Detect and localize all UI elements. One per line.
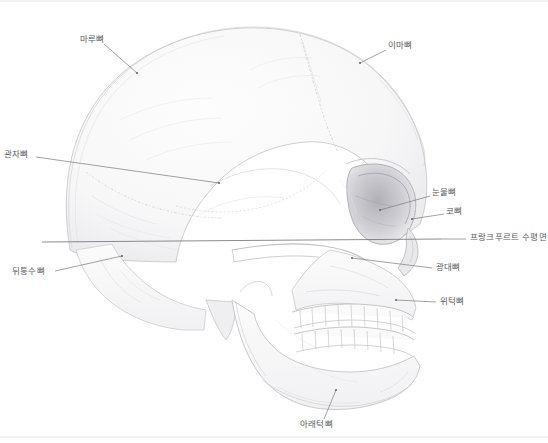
- endpoint-parietal-bone: [136, 72, 138, 74]
- mastoid-process: [206, 300, 236, 340]
- skull-illustration: [0, 0, 548, 443]
- label-maxilla: 위턱뼈: [440, 297, 465, 306]
- label-lacrimal-bone: 눈물뼈: [432, 188, 457, 197]
- skull-anatomy-figure: 마루뼈 이마뼈 관자뼈 눈물뼈 코뼈 프랑크푸르트 수평면 광대뼈 위턱뼈 뒤통…: [0, 0, 548, 443]
- endpoint-mandible: [335, 389, 337, 391]
- lower-teeth: [294, 327, 414, 357]
- label-nasal-bone: 코뼈: [446, 207, 462, 216]
- label-temporal-bone: 관자뼈: [4, 150, 29, 159]
- leader-parietal-bone: [104, 44, 137, 73]
- endpoint-lacrimal-bone: [379, 209, 381, 211]
- label-mandible: 아래턱뼈: [300, 420, 333, 429]
- endpoint-maxilla: [395, 299, 397, 301]
- endpoint-occipital-bone: [121, 255, 123, 257]
- label-parietal-bone: 마루뼈: [80, 35, 105, 44]
- label-zygomatic-bone: 광대뼈: [436, 263, 461, 272]
- endpoint-temporal-bone: [218, 182, 220, 184]
- endpoint-nasal-bone: [411, 218, 413, 220]
- label-occipital-bone: 뒤통수뼈: [12, 267, 45, 276]
- endpoint-frontal-bone: [359, 62, 361, 64]
- endpoint-zygomatic-bone: [351, 257, 353, 259]
- leader-frontal-bone: [360, 50, 386, 63]
- label-frontal-bone: 이마뼈: [388, 41, 413, 50]
- label-frankfurt-horizontal-plane: 프랑크푸르트 수평면: [470, 233, 547, 242]
